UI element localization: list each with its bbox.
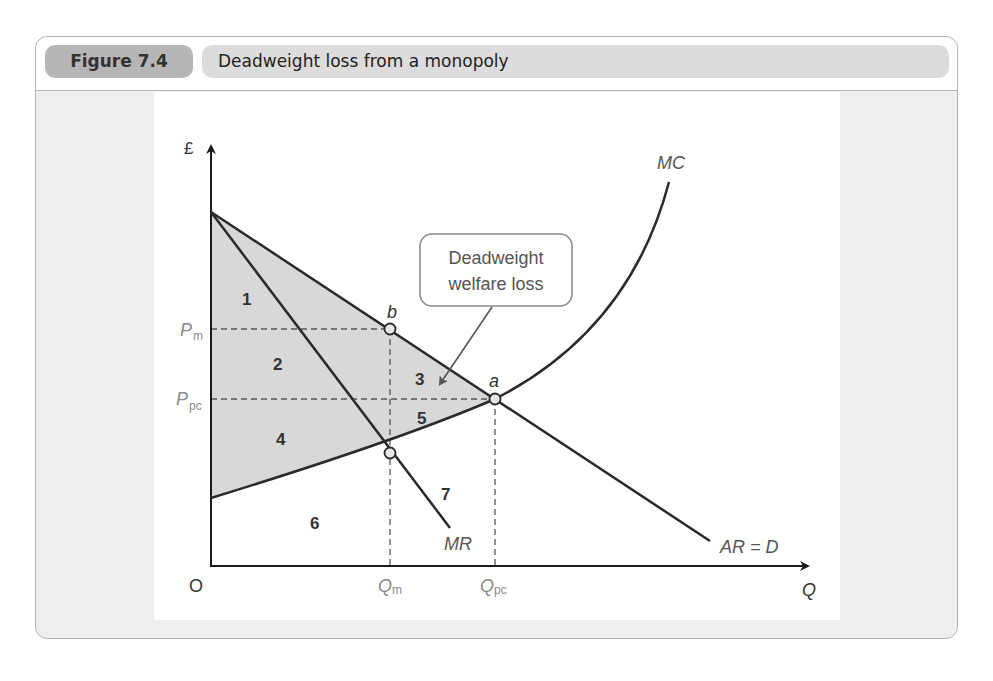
area-2-label: 2 (273, 355, 282, 374)
monopoly-diagram: Deadweight welfare loss £ Q O P m P pc Q… (0, 0, 993, 681)
svg-text:Q: Q (378, 576, 392, 596)
y-axis-label: £ (184, 139, 194, 158)
svg-text:pc: pc (189, 399, 202, 413)
svg-text:m: m (392, 583, 402, 597)
point-b-marker (385, 324, 396, 335)
ar-curve-label: AR = D (719, 537, 779, 557)
x-tick-qpc: Q pc (480, 576, 507, 597)
area-3-label: 3 (415, 370, 424, 389)
area-6-label: 6 (310, 514, 319, 533)
area-7-label: 7 (441, 485, 450, 504)
svg-text:Q: Q (480, 576, 494, 596)
point-b-label: b (387, 302, 397, 322)
y-tick-ppc: P pc (176, 389, 202, 413)
area-5-label: 5 (417, 409, 426, 428)
callout-box (420, 234, 572, 306)
svg-text:P: P (176, 389, 188, 409)
svg-text:P: P (180, 320, 192, 340)
svg-text:m: m (193, 329, 203, 343)
mc-curve-label: MC (657, 153, 686, 173)
callout-arrow (440, 307, 492, 384)
point-a-marker (490, 394, 501, 405)
y-tick-pm: P m (180, 320, 203, 343)
x-axis-label: Q (802, 580, 816, 600)
area-4-label: 4 (276, 430, 286, 449)
svg-text:pc: pc (494, 583, 507, 597)
callout-line-1: Deadweight (448, 248, 543, 268)
mr-mc-intersection-marker (385, 448, 396, 459)
callout-line-2: welfare loss (447, 274, 543, 294)
origin-label: O (189, 576, 203, 596)
area-1-label: 1 (242, 290, 251, 309)
x-tick-qm: Q m (378, 576, 402, 597)
mr-curve-label: MR (444, 534, 472, 554)
point-a-label: a (489, 371, 499, 391)
